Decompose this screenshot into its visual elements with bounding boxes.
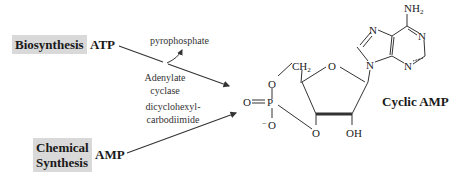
atom-o-minus: O	[268, 119, 276, 131]
atom-labels: NH2 N N N N O CH2 O P O − O O OH	[243, 2, 426, 139]
atom-p: P	[267, 96, 273, 108]
pyrophosphate-arrow	[167, 50, 182, 63]
atom-oh: OH	[346, 127, 362, 139]
atom-n3: N	[404, 60, 412, 72]
atom-o3: O	[312, 127, 320, 139]
atom-ch2: CH2	[292, 60, 311, 74]
atom-nh2: NH2	[404, 2, 424, 16]
atom-n9: N	[366, 59, 374, 71]
atom-minus: −	[262, 119, 267, 128]
atom-o5: O	[268, 78, 276, 90]
atom-n7: N	[369, 24, 377, 36]
diagram-canvas: Biosynthesis ATP Chemical Synthesis AMP …	[0, 0, 464, 178]
chemical-arrow	[127, 113, 236, 153]
atom-n1: N	[418, 30, 426, 42]
biosynthesis-arrow	[119, 46, 229, 86]
atom-o-double: O	[243, 96, 251, 108]
cyclic-amp-structure	[252, 14, 425, 129]
structure-svg: NH2 N N N N O CH2 O P O − O O OH	[0, 0, 464, 178]
atom-ring-o: O	[328, 60, 336, 72]
